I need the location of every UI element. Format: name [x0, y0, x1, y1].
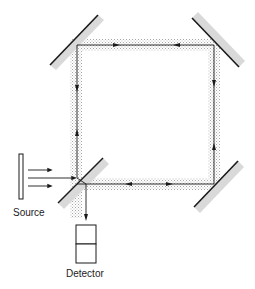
- beam-bands: [70, 39, 220, 218]
- arrow-icon: [84, 214, 88, 221]
- detector: [76, 225, 96, 263]
- direction-arrows: [75, 43, 216, 221]
- beam-paths: [77, 45, 214, 218]
- source: [19, 154, 74, 199]
- source-label: Source: [13, 207, 45, 218]
- ring-interferometer-diagram: [0, 0, 255, 289]
- detector-label: Detector: [66, 268, 104, 279]
